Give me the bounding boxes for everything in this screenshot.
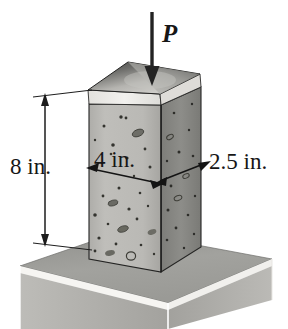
load-force-label: P — [162, 21, 177, 46]
column-right-face — [161, 87, 201, 272]
width-dimension-label: 4 in. — [94, 148, 135, 171]
depth-dimension-label: 2.5 in. — [209, 150, 267, 173]
height-dimension-label: 8 in. — [10, 155, 51, 178]
engineering-diagram: 8 in. 4 in. 2.5 in. P — [0, 0, 288, 329]
column-front-face — [89, 104, 161, 272]
